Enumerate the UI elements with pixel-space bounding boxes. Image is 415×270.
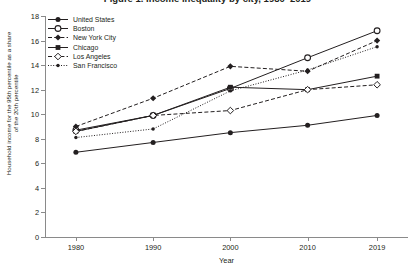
legend-item-los-angeles[interactable]: Los Angeles bbox=[48, 52, 168, 61]
figure-container: Figure 1. Income inequality by city, 198… bbox=[0, 0, 415, 270]
x-tick bbox=[377, 237, 378, 241]
y-tick-label: 12 bbox=[31, 85, 39, 94]
y-tick-label: 0 bbox=[35, 233, 39, 242]
y-tick bbox=[41, 114, 45, 115]
x-tick-label: 2019 bbox=[369, 243, 385, 252]
legend-swatch-icon bbox=[48, 24, 68, 33]
y-tick bbox=[41, 163, 45, 164]
legend-swatch-icon bbox=[48, 61, 68, 70]
y-tick bbox=[41, 139, 45, 140]
x-tick-label: 1980 bbox=[68, 243, 84, 252]
y-tick-label: 6 bbox=[35, 159, 39, 168]
y-tick-label: 8 bbox=[35, 134, 39, 143]
y-tick-label: 14 bbox=[31, 61, 39, 70]
x-tick bbox=[230, 237, 231, 241]
x-axis-title: Year bbox=[45, 256, 408, 265]
x-tick bbox=[153, 237, 154, 241]
y-tick-label: 2 bbox=[35, 208, 39, 217]
legend-label: Chicago bbox=[73, 44, 98, 51]
y-tick-label: 4 bbox=[35, 183, 39, 192]
legend-swatch-icon bbox=[48, 15, 68, 24]
legend-item-united-states[interactable]: United States bbox=[48, 15, 168, 24]
legend-item-san-francisco[interactable]: San Francisco bbox=[48, 61, 168, 70]
x-tick-label: 1990 bbox=[145, 243, 161, 252]
y-axis-line bbox=[45, 16, 46, 237]
legend-item-boston[interactable]: Boston bbox=[48, 24, 168, 33]
chart-legend: United StatesBostonNew York CityChicagoL… bbox=[48, 15, 168, 70]
y-tick bbox=[41, 41, 45, 42]
legend-item-chicago[interactable]: Chicago bbox=[48, 43, 168, 52]
y-tick bbox=[41, 65, 45, 66]
x-tick-label: 2000 bbox=[222, 243, 238, 252]
x-tick bbox=[308, 237, 309, 241]
y-tick bbox=[41, 188, 45, 189]
legend-label: United States bbox=[73, 16, 114, 23]
legend-label: New York City bbox=[73, 34, 116, 41]
y-tick bbox=[41, 16, 45, 17]
legend-swatch-icon bbox=[48, 52, 68, 61]
y-tick bbox=[41, 90, 45, 91]
legend-label: San Francisco bbox=[73, 62, 117, 69]
y-tick bbox=[41, 237, 45, 238]
x-axis-line bbox=[45, 237, 408, 238]
y-tick bbox=[41, 212, 45, 213]
legend-label: Boston bbox=[73, 25, 94, 32]
y-tick-label: 18 bbox=[31, 12, 39, 21]
legend-item-new-york-city[interactable]: New York City bbox=[48, 33, 168, 42]
figure-title: Figure 1. Income inequality by city, 198… bbox=[0, 0, 415, 4]
series-united-states bbox=[73, 113, 379, 155]
legend-label: Los Angeles bbox=[73, 53, 111, 60]
y-tick-label: 16 bbox=[31, 36, 39, 45]
x-tick-label: 2010 bbox=[299, 243, 315, 252]
legend-swatch-icon bbox=[48, 33, 68, 42]
x-tick bbox=[76, 237, 77, 241]
y-axis-title: Household income for the 95th percentile… bbox=[5, 28, 20, 178]
series-chicago bbox=[73, 74, 379, 134]
legend-swatch-icon bbox=[48, 43, 68, 52]
y-tick-label: 10 bbox=[31, 110, 39, 119]
